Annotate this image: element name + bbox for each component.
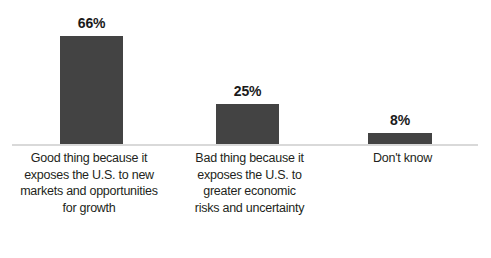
- category-label-line: risks and uncertainty: [178, 200, 321, 217]
- bar-group-bad-thing: 25%: [216, 0, 279, 146]
- category-label-line: exposes the U.S. to new: [0, 167, 178, 184]
- bar-group-good-thing: 66%: [60, 0, 123, 146]
- category-label-dont-know: Don't know: [330, 150, 475, 167]
- category-label-line: Don't know: [330, 150, 475, 167]
- category-label-line: Good thing because it: [0, 150, 178, 167]
- bar-value-label: 66%: [78, 15, 105, 31]
- bar-rect: [216, 104, 279, 145]
- bar-rect: [60, 36, 123, 145]
- source-note-clipped: [0, 250, 491, 258]
- category-label-line: markets and opportunities: [0, 183, 178, 200]
- category-label-bad-thing: Bad thing because it exposes the U.S. to…: [178, 150, 321, 216]
- category-label-line: Bad thing because it: [178, 150, 321, 167]
- category-axis-labels: Good thing because it exposes the U.S. t…: [0, 150, 491, 246]
- bar-chart-figure: 66% 25% 8% Good thing because it exposes…: [0, 0, 491, 258]
- category-label-line: exposes the U.S. to: [178, 167, 321, 184]
- plot-area: 66% 25% 8%: [0, 0, 491, 146]
- category-label-line: for growth: [0, 200, 178, 217]
- category-label-good-thing: Good thing because it exposes the U.S. t…: [0, 150, 178, 216]
- category-label-line: greater economic: [178, 183, 321, 200]
- axis-baseline: [12, 144, 478, 146]
- bar-group-dont-know: 8%: [368, 0, 432, 146]
- bar-value-label: 8%: [390, 112, 410, 128]
- bar-value-label: 25%: [234, 83, 261, 99]
